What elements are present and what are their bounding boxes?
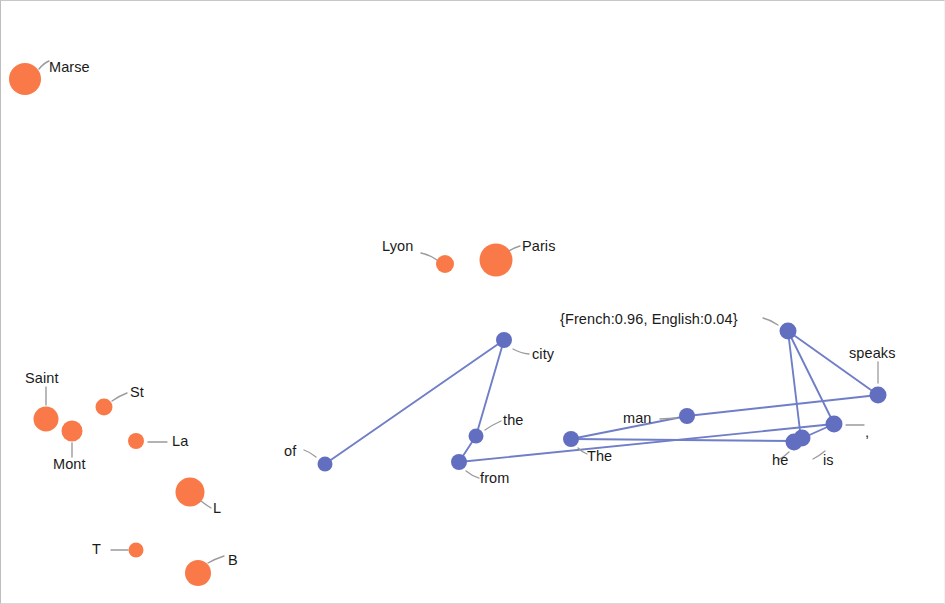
- token-label-city: city: [532, 347, 554, 362]
- token-label-speaks: speaks: [849, 346, 896, 361]
- entity-node-marse[interactable]: [9, 63, 41, 95]
- entity-label-marse: Marse: [49, 60, 90, 75]
- token-node-from[interactable]: [451, 454, 467, 470]
- entity-node-t[interactable]: [129, 543, 144, 558]
- leader-l: [201, 501, 211, 508]
- token-node-he-alt[interactable]: [794, 430, 811, 447]
- leader-of: [304, 450, 316, 457]
- leader-the: [485, 421, 501, 430]
- token-label-thecap: The: [587, 449, 612, 464]
- entity-label-paris: Paris: [522, 239, 556, 254]
- token-node-thecap[interactable]: [563, 431, 579, 447]
- token-label-man: man: [623, 411, 652, 426]
- token-label-from: from: [480, 471, 509, 486]
- leader-french: [763, 318, 778, 325]
- entity-node-lyon[interactable]: [436, 255, 454, 273]
- entity-node-b[interactable]: [185, 560, 211, 586]
- leader-city: [513, 349, 529, 354]
- entity-label-la: La: [172, 434, 188, 449]
- entity-label-t: T: [92, 542, 101, 557]
- entity-nodes: [9, 63, 513, 586]
- edge-french-speaks: [788, 331, 878, 395]
- token-label-of: of: [284, 444, 296, 459]
- token-label-is: is: [823, 453, 834, 468]
- entity-label-st: St: [130, 385, 144, 400]
- edge-thecap-he: [571, 439, 794, 441]
- entity-label-b: B: [228, 553, 238, 568]
- token-label-the: the: [503, 413, 523, 428]
- edge-french-he: [788, 331, 801, 439]
- leader-lyon: [421, 253, 437, 260]
- edge-man-speaks: [687, 395, 878, 416]
- entity-node-paris[interactable]: [480, 244, 513, 277]
- entity-node-st[interactable]: [96, 399, 113, 416]
- token-node-the[interactable]: [469, 429, 484, 444]
- token-label-he: he: [772, 453, 788, 468]
- token-node-of[interactable]: [318, 457, 333, 472]
- token-label-french-prob: {French:0.96, English:0.04}: [560, 312, 738, 327]
- edge-is-french: [788, 331, 834, 424]
- token-node-speaks[interactable]: [870, 387, 887, 404]
- entity-label-l: L: [213, 501, 221, 516]
- entity-leader-lines: [39, 61, 520, 563]
- entity-label-mont: Mont: [53, 457, 86, 472]
- graph-svg: [1, 1, 945, 604]
- leader-b: [208, 556, 224, 563]
- token-node-man[interactable]: [679, 408, 695, 424]
- leader-st: [112, 393, 127, 401]
- entity-node-mont[interactable]: [62, 421, 83, 442]
- leader-from: [466, 471, 479, 478]
- entity-node-la[interactable]: [128, 433, 144, 449]
- entity-label-saint: Saint: [25, 371, 59, 386]
- token-node-city[interactable]: [496, 332, 512, 348]
- token-label-comma: ,: [865, 424, 869, 439]
- entity-label-lyon: Lyon: [382, 239, 413, 254]
- entity-node-saint[interactable]: [34, 407, 59, 432]
- embedding-plot-canvas: Marse Lyon Paris Saint Mont St La L T B …: [0, 0, 945, 604]
- token-node-is[interactable]: [826, 416, 843, 433]
- leader-marse: [39, 61, 49, 69]
- entity-node-l[interactable]: [176, 478, 205, 507]
- token-node-french[interactable]: [780, 323, 797, 340]
- edge-of-city: [325, 340, 504, 464]
